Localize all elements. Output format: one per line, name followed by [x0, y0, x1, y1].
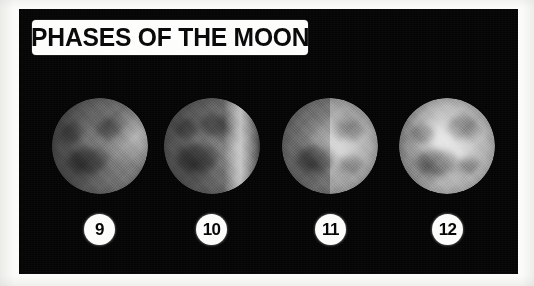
mare-patch	[336, 121, 361, 140]
moon-cell-10	[156, 90, 268, 202]
phase-number-badge-12: 12	[432, 214, 463, 245]
mare-patch	[411, 125, 434, 144]
mare-patch	[447, 117, 476, 138]
phase-number-badge-10: 10	[196, 214, 227, 245]
badge-label: 9	[95, 221, 104, 238]
moon-surface-9	[52, 98, 148, 194]
phase-number-badge-11: 11	[315, 214, 346, 245]
moon-cell-11	[274, 90, 386, 202]
mare-patch	[297, 146, 333, 171]
moon-surface-12	[399, 98, 495, 194]
phases-of-the-moon-poster: PHASES OF THE MOON	[0, 0, 534, 286]
moon-image-12	[399, 98, 495, 194]
badge-label: 12	[439, 221, 457, 238]
mare-patch	[418, 150, 456, 175]
mare-patch	[177, 144, 217, 171]
moon-cell-12	[391, 90, 503, 202]
badge-label: 11	[322, 221, 339, 238]
moon-image-11	[282, 98, 378, 194]
badge-label: 10	[203, 221, 221, 238]
moon-image-10	[164, 98, 260, 194]
moon-image-9	[52, 98, 148, 194]
mare-patch	[69, 148, 107, 173]
mare-patch	[60, 123, 81, 144]
moon-cell-9	[44, 90, 156, 202]
phase-number-badge-9: 9	[84, 214, 115, 245]
moon-surface-10	[164, 98, 260, 194]
moon-surface-11	[282, 98, 378, 194]
poster-black-plate: PHASES OF THE MOON	[19, 9, 518, 274]
mare-patch	[174, 119, 197, 138]
mare-patch	[457, 158, 478, 173]
mare-patch	[338, 156, 361, 173]
